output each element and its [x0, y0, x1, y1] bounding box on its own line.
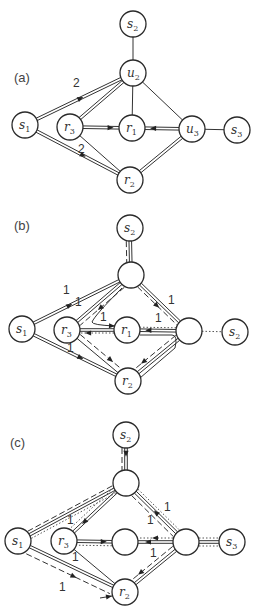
edge-r3-mid — [77, 540, 112, 541]
panel-b-edges — [33, 241, 222, 378]
edge-capacity-label: 1 — [72, 550, 79, 564]
edge-r2-u3 — [141, 138, 183, 172]
edge-u2-r1 — [132, 86, 133, 115]
edge-mid-r2 — [137, 338, 178, 372]
node-s1: s1 — [5, 528, 31, 554]
edge-capacity-label: 1 — [67, 513, 74, 527]
panel-b-label: (b) — [14, 218, 30, 233]
node-r2: r2 — [115, 368, 141, 394]
edge-s1-top — [31, 493, 116, 539]
node-r1: r1 — [114, 317, 140, 343]
node-mid — [176, 318, 202, 344]
node-s2: s2 — [120, 11, 146, 37]
network-flow-diagram: (a) s2u2s1r3r1u3s3r2 22 (b) s2s1r3r1s2r2… — [0, 0, 260, 615]
edge-r3-r1 — [83, 129, 119, 130]
node-s3: s3 — [224, 117, 250, 143]
node-circle — [173, 529, 199, 555]
edge-capacity-label: 1 — [67, 341, 74, 355]
node-r2: r2 — [112, 579, 138, 605]
edge-capacity-label: 1 — [150, 546, 157, 560]
edge-capacity-label: 1 — [59, 580, 66, 594]
node-u3: u3 — [179, 116, 205, 142]
edge-s1-r2 — [29, 548, 113, 588]
edge-u3-r1 — [145, 130, 179, 131]
panel-c-label: (c) — [10, 435, 25, 450]
node-r3: r3 — [57, 114, 83, 140]
node-r3: r3 — [54, 317, 80, 343]
edge-u2-u3 — [142, 82, 182, 120]
edge-r3-mid — [77, 543, 112, 544]
edge-r2-u3 — [139, 136, 181, 170]
panel-a-label: (a) — [14, 70, 30, 85]
edge-top-r3 — [76, 282, 120, 320]
node-circle — [176, 318, 202, 344]
edge-mid-r1 — [140, 329, 176, 330]
edge-r3-r1 — [83, 126, 119, 127]
node-s2: s2 — [117, 215, 143, 241]
edge-rt-top — [136, 491, 177, 532]
edge-top-r3 — [74, 493, 117, 533]
edge-mid-r1 — [140, 332, 176, 333]
node-rt — [173, 529, 199, 555]
edge-r3-u2 — [79, 80, 122, 117]
panel-b: (b) s2s1r3r1s2r2 111111 — [9, 215, 248, 394]
edge-capacity-label: 2 — [73, 76, 80, 90]
node-s2: s2 — [113, 422, 139, 448]
node-r1: r1 — [119, 115, 145, 141]
panel-a-nodes: s2u2s1r3r1u3s3r2 — [12, 11, 250, 193]
edge-capacity-label: 1 — [155, 311, 162, 325]
edge-r3-r2 — [80, 335, 121, 369]
arrow-head-icon — [107, 356, 113, 362]
arrow-head-icon — [145, 539, 151, 544]
node-mid — [112, 529, 138, 555]
node-circle — [118, 262, 144, 288]
edge-capacity-label: 1 — [147, 513, 154, 527]
node-s3: s3 — [219, 529, 245, 555]
edge-s1-r2 — [33, 336, 116, 377]
edge-top-rt — [138, 489, 179, 530]
node-circle — [112, 529, 138, 555]
panel-c: (c) s2s1r3s3r2 111111 — [5, 422, 245, 605]
flow-curve — [140, 335, 176, 378]
arrow-head-icon — [123, 451, 128, 457]
node-r2: r2 — [117, 167, 143, 193]
arrow-head-icon — [106, 594, 112, 599]
edge-s1-r2 — [26, 554, 110, 594]
edge-mid-r2 — [139, 340, 180, 374]
edge-u3-r1 — [145, 127, 179, 128]
edge-capacity-label: 1 — [75, 295, 82, 309]
edge-mid-r3 — [77, 545, 112, 546]
edge-capacity-label: 2 — [78, 142, 85, 156]
panel-a-edges — [36, 37, 224, 175]
edge-top-r3 — [73, 491, 116, 531]
node-s1: s1 — [12, 112, 38, 138]
edge-capacity-label: 1 — [164, 500, 171, 514]
node-s1: s1 — [9, 316, 35, 342]
edge-capacity-label: 1 — [63, 283, 70, 297]
panel-a: (a) s2u2s1r3r1u3s3r2 22 — [12, 11, 250, 193]
node-circle — [113, 470, 139, 496]
arrow-head-icon — [152, 535, 158, 540]
node-s2r: s2 — [222, 319, 248, 345]
node-u2: u2 — [120, 60, 146, 86]
edge-r3-u2 — [81, 82, 124, 119]
edge-capacity-label: 1 — [100, 310, 107, 324]
edge-mid-r1 — [140, 327, 176, 328]
node-top — [118, 262, 144, 288]
edge-capacity-label: 1 — [168, 293, 175, 307]
node-top — [113, 470, 139, 496]
